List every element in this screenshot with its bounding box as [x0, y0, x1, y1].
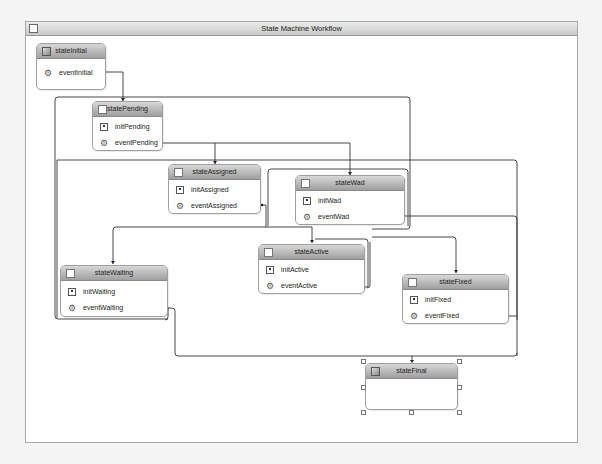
state-initialization-icon: [410, 296, 418, 304]
state-initial[interactable]: stateInitial ⚙ eventInitial: [36, 43, 106, 90]
init-assigned-label: initAssigned: [191, 186, 229, 193]
state-initialization-icon: [176, 186, 184, 194]
event-driven-icon: ⚙: [100, 139, 108, 147]
state-final[interactable]: stateFinal: [365, 363, 458, 410]
event-active-label: eventActive: [281, 282, 317, 289]
state-final-title: stateFinal: [396, 367, 426, 374]
workflow-collapse-icon[interactable]: [29, 24, 38, 33]
state-wad-title: stateWad: [335, 179, 364, 186]
event-fixed-label: eventFixed: [425, 312, 459, 319]
event-pending-label: eventPending: [115, 139, 158, 146]
resize-handle-e[interactable]: [457, 385, 462, 390]
state-assigned-title: stateAssigned: [193, 168, 237, 175]
init-activity-pending[interactable]: initPending: [93, 119, 162, 135]
workflow-title: State Machine Workflow: [261, 24, 342, 33]
resize-handle-w[interactable]: [361, 385, 366, 390]
init-activity-waiting[interactable]: initWaiting: [61, 284, 167, 300]
init-activity-wad[interactable]: initWad: [296, 193, 404, 209]
state-waiting-header[interactable]: stateWaiting: [61, 266, 167, 281]
state-initial-header[interactable]: stateInitial: [37, 44, 105, 59]
init-activity-fixed[interactable]: initFixed: [403, 292, 508, 308]
init-waiting-label: initWaiting: [83, 288, 115, 295]
event-activity-active[interactable]: ⚙ eventActive: [259, 278, 364, 294]
state-assigned[interactable]: stateAssigned initAssigned ⚙ eventAssign…: [168, 164, 261, 214]
state-icon: [66, 269, 75, 278]
event-activity-waiting[interactable]: ⚙ eventWaiting: [61, 300, 167, 316]
resize-handle-se[interactable]: [457, 410, 462, 415]
event-activity-pending[interactable]: ⚙ eventPending: [93, 135, 162, 151]
state-fixed[interactable]: stateFixed initFixed ⚙ eventFixed: [402, 274, 509, 324]
init-fixed-label: initFixed: [425, 296, 451, 303]
state-fixed-header[interactable]: stateFixed: [403, 275, 508, 290]
state-active[interactable]: stateActive initActive ⚙ eventActive: [258, 244, 365, 294]
workflow-title-bar[interactable]: State Machine Workflow: [26, 22, 577, 36]
event-waiting-label: eventWaiting: [83, 304, 123, 311]
state-final-header[interactable]: stateFinal: [366, 364, 457, 379]
event-activity-initial[interactable]: ⚙ eventInitial: [37, 65, 105, 81]
state-icon: [174, 168, 183, 177]
state-pending-title: statePending: [107, 105, 148, 112]
workflow-canvas[interactable]: State Machine Workflow: [25, 21, 578, 443]
state-waiting-title: stateWaiting: [95, 269, 133, 276]
state-icon: [408, 278, 417, 287]
state-waiting[interactable]: stateWaiting initWaiting ⚙ eventWaiting: [60, 265, 168, 317]
init-wad-label: initWad: [318, 197, 341, 204]
state-initialization-icon: [266, 266, 274, 274]
state-icon: [264, 248, 273, 257]
event-driven-icon: ⚙: [44, 69, 52, 77]
event-assigned-label: eventAssigned: [191, 202, 237, 209]
event-wad-label: eventWad: [318, 213, 349, 220]
state-icon: [301, 179, 310, 188]
state-pending[interactable]: statePending initPending ⚙ eventPending: [92, 101, 163, 151]
state-fixed-title: stateFixed: [439, 278, 471, 285]
state-wad-header[interactable]: stateWad: [296, 176, 404, 191]
initial-state-icon: [42, 47, 51, 56]
init-activity-active[interactable]: initActive: [259, 262, 364, 278]
event-activity-assigned[interactable]: ⚙ eventAssigned: [169, 198, 260, 214]
state-initialization-icon: [303, 197, 311, 205]
state-icon: [98, 105, 107, 114]
event-driven-icon: ⚙: [410, 312, 418, 320]
event-driven-icon: ⚙: [266, 282, 274, 290]
event-driven-icon: ⚙: [303, 213, 311, 221]
state-active-header[interactable]: stateActive: [259, 245, 364, 260]
state-assigned-header[interactable]: stateAssigned: [169, 165, 260, 180]
completed-state-icon: [371, 367, 380, 376]
state-active-title: stateActive: [294, 248, 328, 255]
resize-handle-ne[interactable]: [457, 359, 462, 364]
state-pending-header[interactable]: statePending: [93, 102, 162, 117]
state-initialization-icon: [68, 288, 76, 296]
resize-handle-s[interactable]: [409, 410, 414, 415]
resize-handle-sw[interactable]: [361, 410, 366, 415]
state-initialization-icon: [100, 123, 108, 131]
state-wad[interactable]: stateWad initWad ⚙ eventWad: [295, 175, 405, 225]
event-activity-fixed[interactable]: ⚙ eventFixed: [403, 308, 508, 324]
init-pending-label: initPending: [115, 123, 150, 130]
event-driven-icon: ⚙: [68, 304, 76, 312]
event-initial-label: eventInitial: [59, 69, 92, 76]
init-active-label: initActive: [281, 266, 309, 273]
event-driven-icon: ⚙: [176, 202, 184, 210]
resize-handle-nw[interactable]: [361, 359, 366, 364]
event-activity-wad[interactable]: ⚙ eventWad: [296, 209, 404, 225]
init-activity-assigned[interactable]: initAssigned: [169, 182, 260, 198]
state-initial-title: stateInitial: [55, 47, 87, 54]
